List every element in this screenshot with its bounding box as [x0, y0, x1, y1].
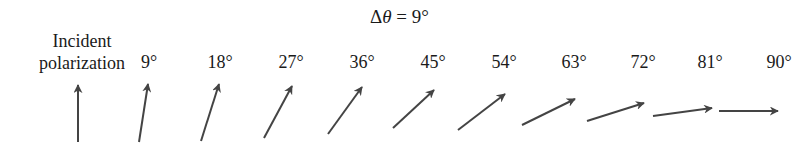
- polarization-arrow-icon-45: [393, 90, 434, 128]
- polarization-arrows: [0, 0, 805, 145]
- polarization-arrow-icon-81: [653, 108, 712, 116]
- polarization-arrow-icon-18: [201, 84, 219, 141]
- polarization-arrow-icon-63: [522, 99, 575, 125]
- polarization-arrow-icon-9: [139, 84, 148, 142]
- polarization-arrow-icon-72: [587, 103, 644, 121]
- polarization-arrow-icon-54: [458, 94, 505, 130]
- polarization-arrow-icon-27: [264, 86, 292, 138]
- polarization-arrow-icon-36: [328, 87, 362, 134]
